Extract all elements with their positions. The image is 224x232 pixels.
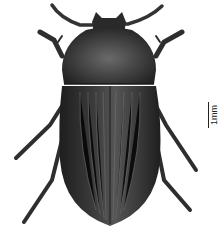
elytra <box>59 86 160 226</box>
scale-bar: 1mm <box>206 100 222 132</box>
pronotum <box>62 27 156 84</box>
beetle-illustration <box>0 0 224 232</box>
scale-bar-label: 1mm <box>209 101 219 129</box>
